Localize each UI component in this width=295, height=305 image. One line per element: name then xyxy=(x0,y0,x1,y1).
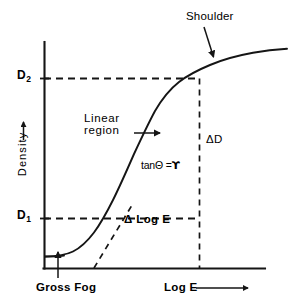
guide-lines-group xyxy=(40,79,200,269)
gross-fog-label: Gross Fog xyxy=(36,281,96,293)
delta-density-label: ΔD xyxy=(206,133,223,145)
linear-region-line1: Linear xyxy=(84,112,120,124)
curve-group xyxy=(45,49,287,257)
d1-subscript: 1 xyxy=(26,214,31,224)
y-tick-label-d1: D1 xyxy=(17,209,31,222)
d2-subscript: 2 xyxy=(26,74,31,84)
linear-region-label: Linearregion xyxy=(84,112,120,137)
y-tick-label-d2: D2 xyxy=(17,69,31,82)
figure-canvas xyxy=(0,0,295,305)
toe-base-path xyxy=(45,256,64,257)
gamma-expression-prefix: tanΘ = xyxy=(141,159,172,171)
gamma-symbol: ϒ xyxy=(172,159,180,172)
delta-log-exposure-label: Δ Log E xyxy=(124,213,170,225)
gamma-expression-label: tanΘ =ϒ xyxy=(141,160,180,172)
y-axis-label: Density xyxy=(17,119,29,189)
linear-region-line2: region xyxy=(84,124,120,136)
shoulder-label: Shoulder xyxy=(186,10,234,22)
characteristic-curve-figure: Shoulder D2 D1 Density Linearregion tanΘ… xyxy=(0,0,295,305)
x-axis-label: Log E xyxy=(164,281,197,293)
annotation-arrows-group xyxy=(24,27,249,288)
axes-group xyxy=(44,42,266,269)
d1-base: D xyxy=(17,208,26,222)
d2-base: D xyxy=(17,68,26,82)
shoulder-arrow xyxy=(204,27,214,57)
